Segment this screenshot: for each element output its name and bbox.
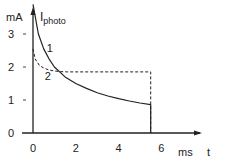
x-axis-label: t: [207, 146, 210, 158]
y-axis-label: Iphoto: [40, 10, 66, 26]
series-label-1: 1: [47, 42, 53, 54]
y-tick-label: 2: [8, 61, 14, 73]
x-unit-label: ms: [178, 146, 193, 158]
y-tick-label: 1: [8, 94, 14, 106]
y-unit-label: mA: [6, 11, 23, 23]
x-axis-arrow-icon: [194, 131, 202, 136]
x-tick-label: 2: [73, 142, 79, 154]
y-tick-label: 0: [8, 127, 14, 139]
x-tick-label: 0: [30, 142, 36, 154]
ticks: 01230246: [8, 28, 164, 154]
x-tick-label: 6: [158, 142, 164, 154]
series-label-2: 2: [45, 70, 51, 82]
y-tick-label: 3: [8, 28, 14, 40]
labels: mA Iphoto ms t 12: [6, 10, 210, 158]
chart: 01230246 mA Iphoto ms t 12: [0, 0, 227, 161]
x-tick-label: 4: [116, 142, 122, 154]
